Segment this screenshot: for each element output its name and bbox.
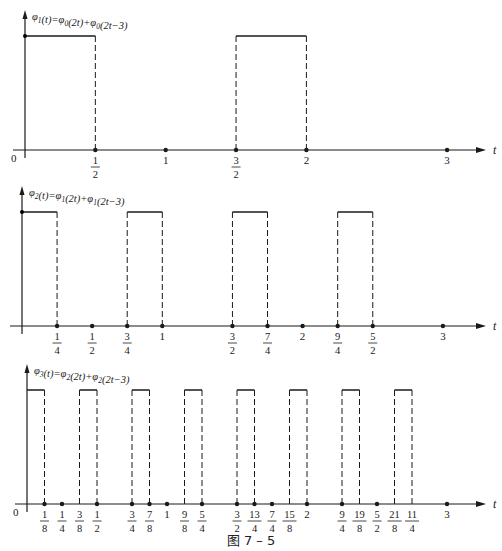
tick-numerator: 1 — [54, 331, 59, 342]
tick-label: 2 — [300, 330, 306, 342]
tick-label: 2 — [304, 508, 310, 520]
x-axis-arrow-icon — [476, 147, 486, 153]
tick-dot — [445, 148, 449, 152]
plot-title: φ2(t)=φ1(2t)+φ1(2t−3) — [29, 187, 125, 208]
tick-label: 1 — [163, 154, 169, 166]
tick-numerator: 1 — [93, 155, 98, 166]
tick-dot — [60, 502, 64, 506]
y-axis-arrow-icon — [25, 364, 30, 373]
tick-numerator: 1 — [59, 509, 64, 520]
tick-dot — [125, 324, 129, 328]
tick-numerator: 3 — [233, 155, 238, 166]
tick-numerator: 5 — [374, 509, 379, 520]
tick-numerator: 9 — [335, 331, 340, 342]
plot-phi3: t0φ3(t)=φ2(2t)+φ2(2t−3)18143812347819854… — [13, 364, 497, 534]
tick-dot — [335, 324, 339, 328]
start-point-dot — [20, 210, 24, 214]
x-axis-label: t — [493, 143, 497, 157]
x-axis-label: t — [493, 497, 497, 511]
tick-dot — [95, 502, 99, 506]
tick-denominator: 2 — [93, 169, 98, 180]
tick-label: 3 — [444, 508, 450, 520]
tick-dot — [270, 502, 274, 506]
plot-phi2: tφ2(t)=φ1(2t)+φ1(2t−3)14123413274294523 — [10, 186, 497, 356]
tick-numerator: 15 — [284, 509, 295, 520]
tick-numerator: 3 — [77, 509, 82, 520]
tick-label: 3 — [444, 154, 450, 166]
tick-numerator: 3 — [129, 509, 134, 520]
tick-numerator: 3 — [125, 331, 130, 342]
x-axis-arrow-icon — [476, 323, 486, 329]
tick-numerator: 9 — [182, 509, 187, 520]
plot-title: φ3(t)=φ2(2t)+φ2(2t−3) — [34, 365, 130, 386]
tick-numerator: 5 — [199, 509, 204, 520]
tick-denominator: 4 — [125, 345, 131, 356]
y-axis-arrow-icon — [20, 186, 25, 195]
tick-label: 2 — [304, 154, 310, 166]
tick-label: 1 — [164, 508, 170, 520]
x-axis-arrow-icon — [476, 501, 486, 507]
tick-dot — [200, 502, 204, 506]
start-point-dot — [23, 34, 27, 38]
tick-dot — [265, 324, 269, 328]
tick-numerator: 1 — [94, 509, 99, 520]
tick-numerator: 9 — [339, 509, 344, 520]
tick-numerator: 3 — [234, 509, 239, 520]
tick-dot — [164, 148, 168, 152]
tick-dot — [300, 324, 304, 328]
figure-7-5: t0φ1(t)=φ0(2t)+φ0(2t−3)1213223 tφ2(t)=φ1… — [0, 0, 502, 551]
tick-denominator: 4 — [54, 345, 60, 356]
tick-numerator: 7 — [269, 509, 274, 520]
tick-dot — [441, 324, 445, 328]
tick-numerator: 7 — [147, 509, 152, 520]
tick-dot — [305, 502, 309, 506]
tick-numerator: 11 — [407, 509, 417, 520]
figure-caption: 图 7 – 5 — [0, 530, 502, 549]
tick-dot — [130, 502, 134, 506]
tick-denominator: 2 — [233, 169, 238, 180]
tick-dot — [90, 324, 94, 328]
tick-numerator: 19 — [354, 509, 365, 520]
x-axis-label: t — [493, 319, 497, 333]
tick-numerator: 5 — [370, 331, 375, 342]
tick-dot — [252, 502, 256, 506]
tick-numerator: 1 — [42, 509, 47, 520]
tick-dot — [230, 324, 234, 328]
tick-dot — [160, 324, 164, 328]
tick-dot — [147, 502, 151, 506]
origin-label: 0 — [11, 152, 17, 164]
tick-denominator: 2 — [90, 345, 95, 356]
tick-dot — [371, 324, 375, 328]
tick-denominator: 2 — [230, 345, 235, 356]
tick-dot — [93, 148, 97, 152]
tick-numerator: 7 — [265, 331, 270, 342]
tick-label: 1 — [160, 330, 166, 342]
tick-denominator: 4 — [335, 345, 341, 356]
tick-numerator: 13 — [249, 509, 260, 520]
tick-label: 3 — [440, 330, 446, 342]
tick-dot — [165, 502, 169, 506]
tick-numerator: 3 — [230, 331, 235, 342]
tick-numerator: 21 — [389, 509, 400, 520]
tick-denominator: 4 — [265, 345, 271, 356]
tick-dot — [55, 324, 59, 328]
tick-numerator: 1 — [90, 331, 95, 342]
tick-dot — [42, 502, 46, 506]
plot-phi1: t0φ1(t)=φ0(2t)+φ0(2t−3)1213223 — [11, 10, 497, 180]
tick-denominator: 2 — [370, 345, 375, 356]
tick-dot — [340, 502, 344, 506]
tick-dot — [235, 502, 239, 506]
origin-label: 0 — [13, 506, 19, 518]
plot-title: φ1(t)=φ0(2t)+φ0(2t−3) — [32, 11, 128, 32]
tick-dot — [445, 502, 449, 506]
tick-dot — [234, 148, 238, 152]
tick-dot — [375, 502, 379, 506]
tick-dot — [304, 148, 308, 152]
y-axis-arrow-icon — [23, 10, 28, 19]
